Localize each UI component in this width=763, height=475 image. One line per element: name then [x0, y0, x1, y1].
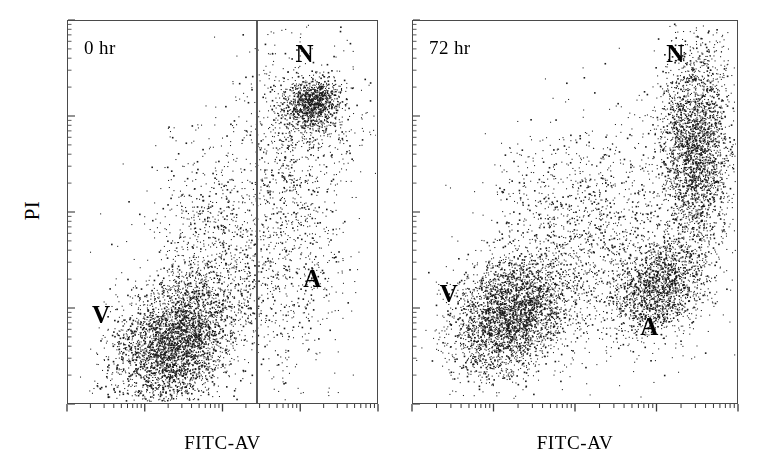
quadrant-label-a: A: [640, 314, 658, 339]
x-axis-title: FITC-AV: [412, 433, 738, 452]
flow-cytometry-figure: PI 0 hrNAVFITC-AV72 hrNAVFITC-AV: [0, 0, 763, 475]
dot-plot-panel-72hr: 72 hrNAVFITC-AV: [0, 0, 763, 475]
quadrant-label-v: V: [440, 281, 458, 306]
axis-ticks: [400, 18, 750, 426]
quadrant-label-n: N: [666, 41, 684, 66]
time-point-label: 72 hr: [429, 38, 471, 57]
